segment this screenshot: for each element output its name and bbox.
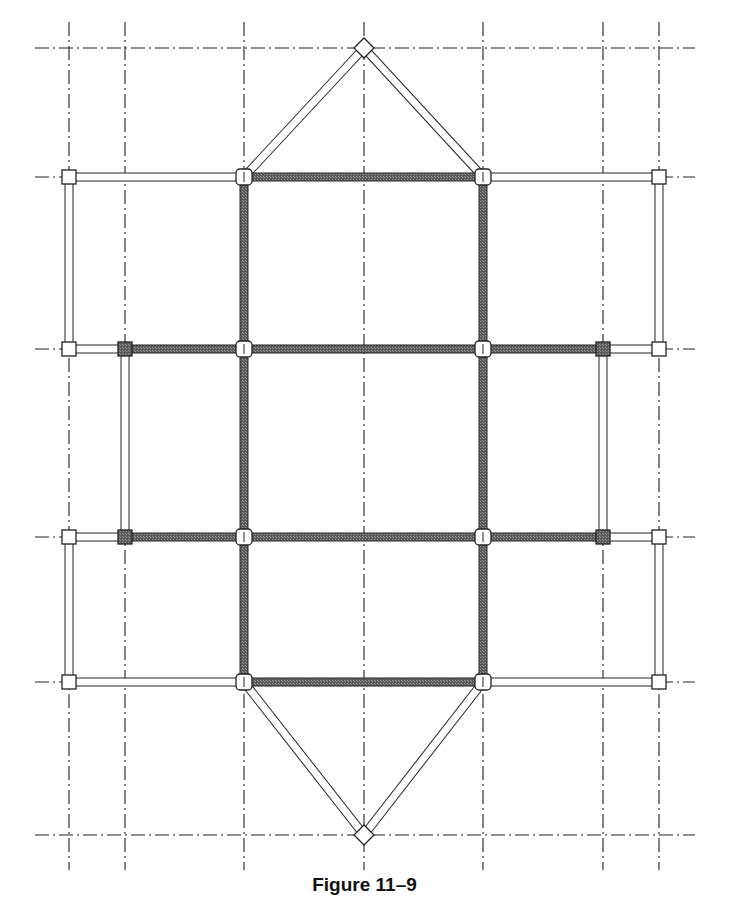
column-square: [62, 342, 76, 356]
column-square: [62, 170, 76, 184]
column-square: [652, 530, 666, 544]
column-square: [62, 530, 76, 544]
secondary-beam: [244, 682, 364, 835]
column-square: [652, 342, 666, 356]
secondary-beam: [364, 682, 483, 835]
column-hatched: [118, 342, 132, 356]
column-square: [62, 675, 76, 689]
framing-plan-diagram: [0, 0, 729, 870]
secondary-beam: [244, 48, 364, 177]
figure-caption: Figure 11–9: [0, 874, 729, 896]
column-square: [652, 675, 666, 689]
column-hatched: [596, 530, 610, 544]
column-hatched: [118, 530, 132, 544]
column-square: [652, 170, 666, 184]
secondary-beam: [364, 48, 483, 177]
column-hatched: [596, 342, 610, 356]
grid-lines: [35, 22, 695, 870]
